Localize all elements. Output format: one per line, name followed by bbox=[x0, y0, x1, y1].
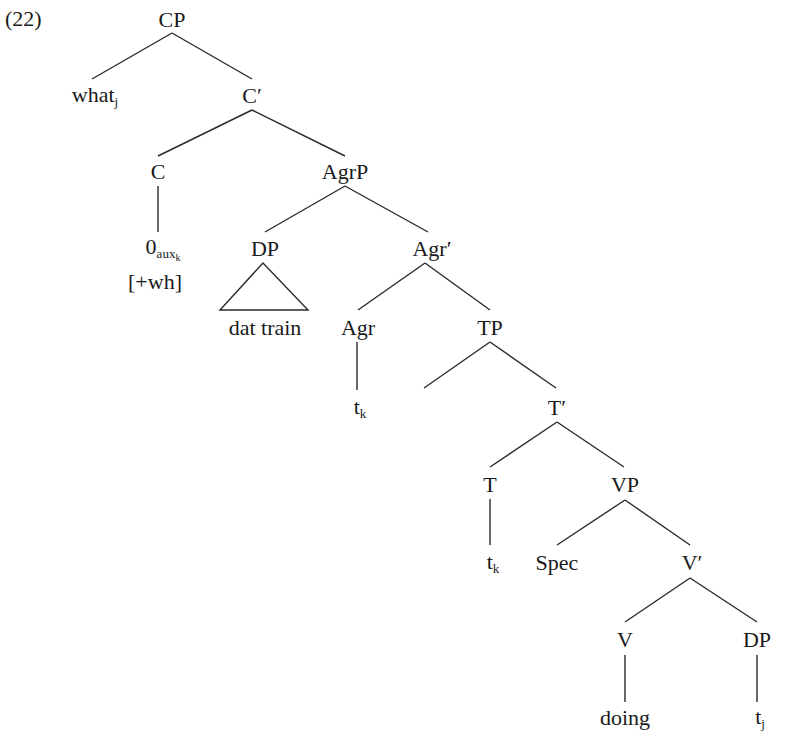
node-t-trace: tk bbox=[487, 551, 500, 575]
node-wh-feature: [+wh] bbox=[128, 271, 182, 293]
branch-tp-tbar bbox=[490, 342, 556, 388]
node-label: dat train bbox=[229, 315, 302, 340]
node-doing: doing bbox=[600, 707, 650, 729]
node-label: V′ bbox=[682, 550, 703, 575]
node-tbar: T′ bbox=[548, 397, 566, 419]
node-vp: VP bbox=[611, 474, 639, 496]
branch-vp-spec bbox=[557, 500, 625, 545]
branch-vbar-dp2 bbox=[690, 578, 757, 622]
branch-cp-what bbox=[92, 33, 172, 79]
node-null-aux: 0auxk bbox=[146, 236, 181, 263]
node-spec: Spec bbox=[536, 552, 579, 574]
branch-agrp-dp1 bbox=[265, 186, 345, 232]
tree-branches bbox=[0, 0, 790, 749]
node-dp-trace: tj bbox=[755, 706, 765, 730]
node-label: Spec bbox=[536, 550, 579, 575]
node-t: T bbox=[483, 474, 496, 496]
branch-agrp-agrbar bbox=[345, 186, 428, 232]
node-subscript: j bbox=[115, 94, 119, 109]
node-dp2: DP bbox=[743, 629, 771, 651]
node-subscript: k bbox=[360, 406, 367, 421]
branch-agrbar-tp bbox=[425, 263, 490, 310]
node-subscript: auxk bbox=[157, 246, 181, 261]
node-what: whatj bbox=[72, 84, 118, 108]
node-vbar: V′ bbox=[682, 552, 703, 574]
node-dp1: DP bbox=[251, 238, 279, 260]
node-subscript: k bbox=[493, 561, 500, 576]
node-v: V bbox=[617, 629, 633, 651]
branch-agrbar-agr bbox=[358, 263, 425, 310]
node-label: AgrP bbox=[322, 159, 368, 184]
node-cp: CP bbox=[159, 9, 186, 31]
branch-tp-spec-empty bbox=[424, 342, 490, 388]
node-label: DP bbox=[251, 236, 279, 261]
branch-tbar-t bbox=[490, 422, 557, 467]
node-cbar: C′ bbox=[242, 85, 262, 107]
node-agrp: AgrP bbox=[322, 161, 368, 183]
node-dat-train: dat train bbox=[229, 317, 302, 339]
branch-vbar-v bbox=[625, 578, 690, 622]
branch-cbar-agrp bbox=[252, 110, 345, 156]
node-agr: Agr bbox=[341, 317, 375, 339]
node-label: Agr bbox=[341, 315, 375, 340]
node-label: C bbox=[151, 159, 166, 184]
node-c: C bbox=[151, 161, 166, 183]
node-sub-subscript: k bbox=[175, 252, 180, 263]
branch-cbar-c bbox=[158, 110, 252, 156]
node-label: T′ bbox=[548, 395, 566, 420]
node-agrbar: Agr′ bbox=[412, 238, 451, 260]
node-label: Agr′ bbox=[412, 236, 451, 261]
node-label: 0 bbox=[146, 234, 157, 259]
syntax-tree-diagram: (22) CPwhatjC′CAgrP0auxk[+wh]DPAgr′dat t… bbox=[0, 0, 790, 749]
node-label: C′ bbox=[242, 83, 262, 108]
branch-vp-vbar bbox=[625, 500, 690, 545]
node-label: [+wh] bbox=[128, 269, 182, 294]
node-label: DP bbox=[743, 627, 771, 652]
node-label: CP bbox=[159, 7, 186, 32]
node-tp: TP bbox=[477, 317, 503, 339]
example-number: (22) bbox=[5, 8, 42, 30]
node-agr-trace: tk bbox=[354, 396, 367, 420]
node-label: what bbox=[72, 82, 115, 107]
node-label: T bbox=[483, 472, 496, 497]
branch-cp-cbar bbox=[172, 33, 252, 79]
node-label: doing bbox=[600, 705, 650, 730]
node-label: TP bbox=[477, 315, 503, 340]
node-label: VP bbox=[611, 472, 639, 497]
dp-triangle bbox=[220, 263, 308, 310]
node-label: V bbox=[617, 627, 633, 652]
branch-tbar-vp bbox=[557, 422, 624, 467]
node-subscript: j bbox=[761, 716, 765, 731]
